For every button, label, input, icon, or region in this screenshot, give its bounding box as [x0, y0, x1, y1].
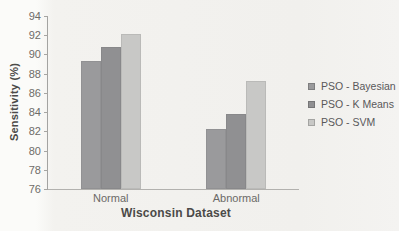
- legend-item-pso-svm: PSO - SVM: [308, 113, 396, 131]
- y-tick-label-86: 86: [15, 86, 41, 100]
- y-tick-label-92: 92: [15, 28, 41, 42]
- plot-area: 94929088868482807876: [47, 16, 299, 190]
- legend-swatch-icon: [308, 83, 315, 90]
- y-tick-mark: [44, 74, 48, 75]
- legend-label: PSO - Bayesian: [321, 80, 396, 92]
- bar-abnormal-pso-k-means: [226, 114, 246, 189]
- bar-chart-figure: Sensitivity (%) 94929088868482807876 Wis…: [0, 0, 399, 231]
- y-tick-label-80: 80: [15, 144, 41, 158]
- y-tick-mark: [44, 93, 48, 94]
- bar-normal-pso-k-means: [101, 47, 121, 189]
- y-tick-label-88: 88: [15, 67, 41, 81]
- y-tick-mark: [44, 189, 48, 190]
- bar-normal-pso-bayesian: [81, 61, 101, 189]
- y-tick-label-90: 90: [15, 47, 41, 61]
- legend: PSO - BayesianPSO - K MeansPSO - SVM: [308, 77, 396, 131]
- x-axis-title: Wisconsin Dataset: [121, 206, 231, 220]
- y-tick-mark: [44, 151, 48, 152]
- legend-swatch-icon: [308, 101, 315, 108]
- y-tick-mark: [44, 16, 48, 17]
- legend-item-pso-bayesian: PSO - Bayesian: [308, 77, 396, 95]
- x-category-label-abnormal: Abnormal: [213, 192, 260, 204]
- legend-swatch-icon: [308, 119, 315, 126]
- legend-label: PSO - SVM: [321, 116, 375, 128]
- x-category-label-normal: Normal: [93, 192, 128, 204]
- y-tick-label-94: 94: [15, 9, 41, 23]
- bar-abnormal-pso-bayesian: [206, 129, 226, 189]
- bar-abnormal-pso-svm: [246, 81, 266, 189]
- legend-item-pso-k-means: PSO - K Means: [308, 95, 396, 113]
- y-tick-mark: [44, 54, 48, 55]
- y-tick-mark: [44, 131, 48, 132]
- y-tick-label-82: 82: [15, 124, 41, 138]
- y-tick-label-78: 78: [15, 163, 41, 177]
- y-tick-label-84: 84: [15, 105, 41, 119]
- bar-normal-pso-svm: [121, 34, 141, 189]
- y-tick-mark: [44, 35, 48, 36]
- legend-label: PSO - K Means: [321, 98, 394, 110]
- y-tick-mark: [44, 112, 48, 113]
- y-tick-mark: [44, 170, 48, 171]
- y-tick-label-76: 76: [15, 182, 41, 196]
